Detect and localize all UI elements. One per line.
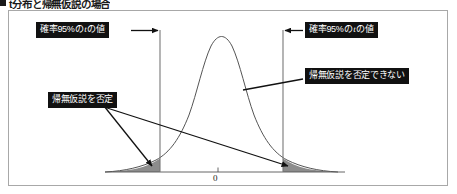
figure-screenshot: t分布と帰無仮説の場合 確 xyxy=(0,0,457,194)
acceptance-region-leader-line xyxy=(243,79,303,90)
left-critical-suffix: の値 xyxy=(87,24,104,34)
right-rejection-tail-area xyxy=(283,159,338,172)
acceptance-region-label: 帰無仮説を否定できない xyxy=(305,68,409,84)
right-critical-value-label: 確率95%のtの値 xyxy=(305,22,378,38)
right-critical-prefix: 確率95%の xyxy=(309,24,352,34)
left-critical-prefix: 確率95%の xyxy=(40,24,83,34)
reject-right-tail-leader-arrow xyxy=(104,107,288,166)
left-critical-value-label: 確率95%のtの値 xyxy=(36,22,109,38)
right-critical-suffix: の値 xyxy=(356,24,373,34)
zero-tick-label: 0 xyxy=(213,173,218,183)
rejection-region-label: 帰無仮説を否定 xyxy=(48,92,117,108)
